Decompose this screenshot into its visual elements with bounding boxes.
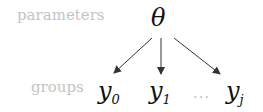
y0-node: y0 xyxy=(98,79,120,103)
yj-node: yj xyxy=(226,79,244,103)
y1-node: y1 xyxy=(149,79,171,103)
arrow-to-y0 xyxy=(114,38,152,73)
yj-base: y xyxy=(226,77,240,105)
ellipsis: ... xyxy=(193,86,210,101)
groups-label: groups xyxy=(31,80,84,95)
y1-subscript: 1 xyxy=(163,92,171,107)
y1-base: y xyxy=(149,77,163,105)
arrow-to-yj xyxy=(174,38,220,74)
y0-base: y xyxy=(98,77,112,105)
yj-subscript: j xyxy=(240,92,244,107)
y0-subscript: 0 xyxy=(112,92,120,107)
